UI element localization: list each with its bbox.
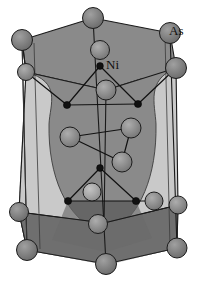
as-atom-right-mid-front [145, 192, 163, 210]
crystal-structure-figure: As Ni [0, 0, 198, 283]
ni-atom-upper-right [134, 100, 141, 107]
as-atom-upper-apex [96, 80, 116, 100]
as-atom-top-left-back [12, 30, 33, 51]
as-atom-bottom-left-back [17, 240, 38, 261]
as-atom-mid-right [121, 118, 141, 138]
as-atom-top-right-front [166, 58, 187, 79]
as-atom-bottom-right-back [167, 238, 187, 258]
as-atom-top-left-front [18, 64, 35, 81]
as-atom-lower-center [89, 215, 108, 234]
as-atom-mid-left [60, 127, 80, 147]
arsenic-label: As [169, 24, 184, 37]
as-atom-lower-apex [83, 183, 101, 201]
ni-atom-top-apex [97, 63, 104, 70]
as-atom-mid-lower [112, 152, 132, 172]
ni-atom-upper-left [63, 101, 70, 108]
ni-atom-lower-left [64, 197, 71, 204]
crystal-structure-svg [0, 0, 198, 283]
as-atom-bottom-center [96, 254, 117, 275]
as-atom-top-center-back [83, 8, 104, 29]
ni-atom-lower-apex [97, 165, 104, 172]
as-atom-bottom-left-front [10, 203, 29, 222]
as-atom-right-mid [169, 196, 187, 214]
nickel-label: Ni [106, 58, 119, 71]
ni-atom-lower-right [132, 197, 139, 204]
